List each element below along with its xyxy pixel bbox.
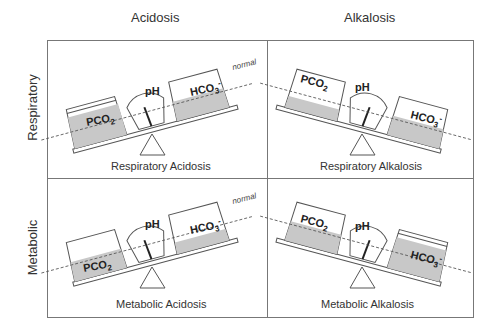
svg-text:pH: pH — [355, 81, 370, 93]
normal-label: normal — [231, 57, 257, 72]
panel-metabolic-acidosis: PCO2 HCO3- pH normal Metabolic Acidosis — [35, 191, 259, 310]
svg-text:normal: normal — [231, 191, 257, 206]
ph-label: pH — [145, 85, 160, 97]
panel-respiratory-acidosis: PCO2 HCO3- pH normal Respiratory Acidosi… — [35, 57, 259, 172]
svg-text:pH: pH — [145, 218, 160, 230]
acid-base-diagram: PCO2 HCO3- pH normal Respiratory Acidosi… — [0, 0, 498, 336]
panel-respiratory-alkalosis: PCO2 HCO3- pH Respiratory Alkalosis — [255, 61, 479, 172]
svg-text:pH: pH — [355, 220, 370, 232]
panel-caption: Metabolic Alkalosis — [321, 298, 414, 310]
panel-caption: Respiratory Acidosis — [111, 160, 211, 172]
panel-caption: Respiratory Alkalosis — [320, 160, 423, 172]
panel-caption: Metabolic Acidosis — [116, 298, 207, 310]
panel-metabolic-alkalosis: PCO2 HCO3- pH Metabolic Alkalosis — [255, 194, 479, 310]
